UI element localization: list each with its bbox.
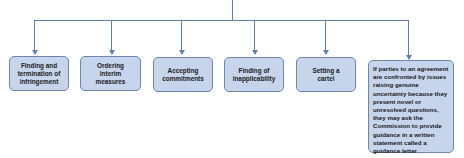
branch-line-5: [325, 20, 326, 51]
node-finding-inapplicability: Finding of inapplicability: [224, 57, 284, 92]
arrow-head-5: [323, 50, 329, 55]
branch-line-6: [408, 20, 409, 56]
horizontal-connector: [34, 20, 409, 21]
node-label: Setting a cartel: [301, 67, 351, 83]
branch-line-1: [34, 20, 35, 51]
node-ordering-interim-measures: Ordering interim measures: [80, 56, 141, 91]
node-label: Accepting commitments: [158, 67, 208, 83]
root-stem: [232, 0, 233, 21]
node-guidance-letter: If parties to an agreement are confronte…: [368, 60, 454, 153]
node-label: Finding and termination of infringement: [14, 62, 64, 86]
branch-line-2: [111, 20, 112, 51]
branch-line-3: [181, 20, 182, 51]
node-accepting-commitments: Accepting commitments: [153, 57, 213, 92]
node-label: If parties to an agreement are confronte…: [373, 65, 449, 155]
arrow-head-3: [179, 50, 185, 55]
node-setting-cartel: Setting a cartel: [296, 57, 356, 92]
node-label: Ordering interim measures: [85, 62, 136, 86]
arrow-head-2: [109, 50, 115, 55]
node-finding-termination-infringement: Finding and termination of infringement: [9, 56, 69, 91]
arrow-head-1: [32, 50, 38, 55]
arrow-head-4: [252, 50, 258, 55]
node-label: Finding of inapplicability: [229, 67, 279, 83]
branch-line-4: [254, 20, 255, 51]
